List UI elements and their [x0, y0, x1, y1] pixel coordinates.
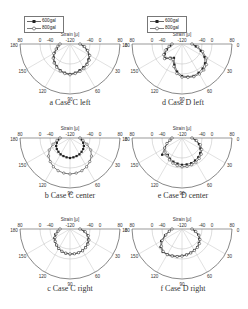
open-circle-marker-icon: [79, 228, 81, 230]
open-circle-marker-icon: [205, 63, 207, 65]
open-circle-marker-icon: [81, 170, 83, 172]
open-circle-marker-icon: [84, 246, 86, 248]
open-circle-marker-icon: [168, 45, 170, 47]
open-circle-marker-icon: [90, 155, 92, 157]
angle-label: 120: [39, 183, 47, 188]
open-circle-marker-icon: [74, 72, 76, 74]
legend-case-c: 600gal 800gal: [24, 16, 64, 33]
open-circle-marker-icon: [57, 230, 59, 232]
open-circle-marker-icon: [69, 253, 71, 255]
open-circle-marker-icon: [191, 163, 193, 165]
filled-square-marker-icon: [80, 151, 82, 153]
radial-tick-label: 0: [99, 38, 102, 43]
open-circle-marker-icon: [191, 43, 193, 45]
open-circle-marker-icon: [173, 65, 175, 67]
open-circle-marker-icon: [198, 157, 200, 159]
radial-tick-label: 0: [39, 38, 42, 43]
open-circle-marker-icon: [172, 162, 174, 164]
radial-tick-label: 0: [211, 132, 214, 137]
filled-square-marker-icon: [62, 155, 64, 157]
radial-tick-label: -40: [199, 132, 206, 137]
angle-label: 60: [95, 89, 101, 94]
legend-item-600gal: 600gal: [148, 18, 186, 25]
radial-tick-label: -120: [177, 132, 187, 137]
open-circle-marker-icon: [61, 250, 63, 252]
grid-spoke: [157, 229, 182, 272]
open-circle-marker-icon: [203, 69, 205, 71]
open-circle-marker-icon: [87, 235, 89, 237]
grid-spoke: [70, 44, 95, 87]
legend-label: 800gal: [42, 25, 56, 30]
grid-spoke: [45, 229, 70, 272]
angle-label: 120: [151, 183, 159, 188]
open-circle-marker-icon: [205, 57, 207, 59]
angle-label: 60: [95, 274, 101, 279]
strain-axis-label: Strain [μ]: [173, 126, 191, 131]
open-circle-marker-icon: [88, 239, 90, 241]
filled-square-marker-icon: [69, 157, 71, 159]
filled-square-marker-icon: [161, 154, 163, 156]
radial-tick-label: -40: [47, 38, 54, 43]
open-circle-marker-icon: [163, 147, 165, 149]
open-circle-marker-icon: [73, 253, 75, 255]
open-circle-marker-icon: [52, 166, 54, 168]
open-circle-marker-icon: [166, 142, 168, 144]
angle-label: 120: [39, 89, 47, 94]
angle-label: 180: [10, 43, 18, 48]
legend-label: 600gal: [42, 18, 56, 23]
open-circle-marker-icon: [85, 166, 87, 168]
open-circle-marker-icon: [48, 149, 50, 151]
open-circle-marker-icon: [200, 153, 202, 155]
angle-label: 120: [151, 89, 159, 94]
filled-square-marker-icon: [75, 155, 77, 157]
open-circle-marker-icon: [199, 144, 201, 146]
open-circle-marker-icon: [171, 43, 173, 45]
grid-spoke: [182, 138, 225, 163]
angle-label: 30: [227, 163, 233, 168]
series-800gal: [54, 228, 90, 255]
open-circle-marker-icon: [79, 43, 81, 45]
legend-item-800gal: 800gal: [148, 25, 186, 32]
open-circle-marker-icon: [149, 25, 165, 32]
radial-tick-label: 80: [229, 223, 235, 228]
radial-tick-label: -40: [199, 38, 206, 43]
open-circle-marker-icon: [84, 231, 86, 233]
open-circle-marker-icon: [195, 161, 197, 163]
open-circle-marker-icon: [63, 172, 65, 174]
radial-tick-label: 0: [99, 132, 102, 137]
open-circle-marker-icon: [87, 243, 89, 245]
radial-tick-label: 0: [99, 223, 102, 228]
open-circle-marker-icon: [190, 252, 192, 254]
polar-panel-c: 0306090120150180800-40-120-40080Strain […: [10, 217, 128, 287]
radial-tick-label: 80: [17, 38, 23, 43]
filled-square-marker-icon: [60, 153, 62, 155]
filled-square-marker-icon: [55, 145, 57, 147]
angle-label: 60: [95, 183, 101, 188]
open-circle-marker-icon: [169, 139, 171, 141]
radial-tick-label: 0: [39, 223, 42, 228]
open-circle-marker-icon: [79, 137, 81, 139]
open-circle-marker-icon: [52, 57, 54, 59]
grid-spoke: [139, 138, 182, 163]
radial-tick-label: -40: [199, 223, 206, 228]
angle-label: 30: [115, 69, 121, 74]
open-circle-marker-icon: [193, 249, 195, 251]
open-circle-marker-icon: [52, 143, 54, 145]
angle-label: 120: [151, 274, 159, 279]
angle-label: 0: [237, 43, 240, 48]
grid-spoke: [157, 44, 182, 87]
angle-label: 60: [207, 89, 213, 94]
open-circle-marker-icon: [195, 139, 197, 141]
polar-panel-f: 0306090120150180800-40-120-40080Strain […: [122, 217, 240, 287]
open-circle-marker-icon: [53, 52, 55, 54]
filled-square-marker-icon: [57, 151, 59, 153]
strain-axis-label: Strain [μ]: [61, 126, 79, 131]
open-circle-marker-icon: [83, 45, 85, 47]
open-circle-marker-icon: [49, 160, 51, 162]
filled-square-marker-icon: [65, 156, 67, 158]
angle-label: 30: [227, 69, 233, 74]
open-circle-marker-icon: [198, 73, 200, 75]
filled-square-marker-icon: [82, 148, 84, 150]
angle-label: 150: [19, 163, 27, 168]
caption-panel-c: c Case C right: [47, 284, 93, 293]
